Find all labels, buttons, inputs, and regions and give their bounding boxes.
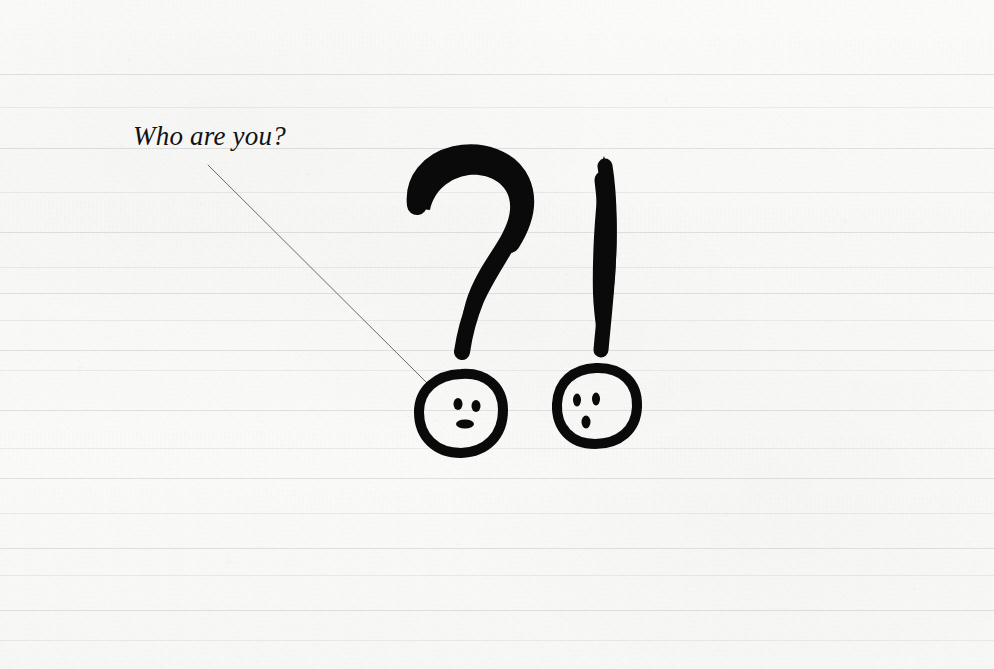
face-eye-left <box>454 398 463 410</box>
exclamation-mark-face <box>557 368 637 444</box>
drawing-canvas: Who are you? <box>0 0 994 669</box>
ink-artwork <box>0 0 994 669</box>
face-eye-left <box>573 394 581 407</box>
leader-line <box>208 165 427 383</box>
face-mouth <box>456 420 474 429</box>
caption-who-are-you: Who are you? <box>133 120 286 152</box>
face-eye-right <box>472 400 481 412</box>
question-mark-glyph <box>411 152 528 352</box>
face-eye-right <box>592 393 600 406</box>
question-mark-face <box>419 374 503 453</box>
face-mouth <box>582 416 591 429</box>
exclamation-mark-glyph <box>593 156 613 352</box>
